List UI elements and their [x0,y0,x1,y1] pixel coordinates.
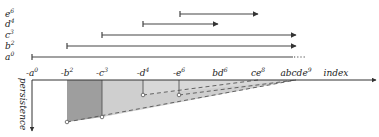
tick-b: -b2 [61,66,74,78]
tick-bd: bd6 [212,66,228,78]
tick-e: -e6 [173,66,185,78]
tick-abcde: abcde9 [280,66,311,78]
tick-ce: ce8 [251,66,265,78]
bar-labels: e6 d4 c3 b2 a0 [5,7,15,62]
tick-d: -d4 [137,66,150,78]
persistence-axis-label: persistence [18,78,28,131]
tick-a: -a0 [26,66,38,78]
tick-c: -c3 [96,66,108,78]
index-axis-label: index [324,68,349,78]
barcode-bars [32,11,306,60]
bar-label-a: a0 [5,50,14,62]
persistence-diagram: e6 d4 c3 b2 a0 [0,0,379,137]
